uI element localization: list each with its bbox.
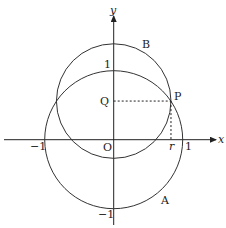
- origin-label: O: [103, 141, 112, 154]
- point-q-label: Q: [100, 95, 109, 108]
- y-axis-label: y: [109, 4, 117, 17]
- x-tick-1-label: 1: [185, 140, 192, 153]
- point-p-label: P: [174, 90, 182, 103]
- r-label: r: [169, 140, 175, 153]
- x-axis-label: x: [218, 133, 225, 146]
- y-tick-1-label: 1: [104, 58, 111, 71]
- circle-b-label: B: [142, 38, 150, 51]
- diagram-canvas: y x B 1 Q P −1 O r 1 A −1: [0, 0, 226, 228]
- y-tick-neg1-label: −1: [98, 208, 114, 221]
- circle-a-label: A: [160, 194, 170, 207]
- x-tick-neg1-label: −1: [30, 140, 46, 153]
